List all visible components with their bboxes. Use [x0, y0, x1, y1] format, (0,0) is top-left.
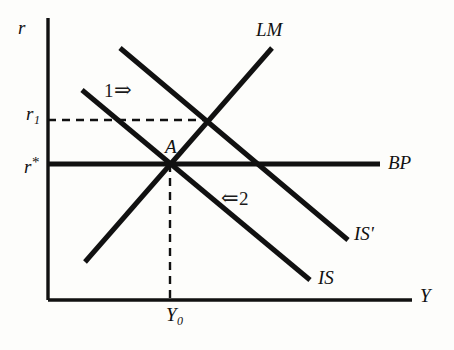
arrow-left-icon: ⇐: [220, 186, 239, 210]
curve-label-is: IS: [318, 268, 334, 287]
curve-is: [82, 90, 310, 280]
y-axis-label: r: [18, 18, 25, 37]
Y0-subscript: 0: [177, 314, 184, 328]
equilibrium-point-label-a: A: [165, 137, 177, 156]
curve-label-is-prime: IS': [354, 224, 374, 243]
Y0-tick-label: Y0: [166, 305, 183, 327]
curve-label-lm: LM: [256, 20, 282, 39]
annotation-shift-1-text: 1: [104, 80, 113, 101]
axes-group: [48, 18, 412, 300]
annotation-shift-2-text: 2: [239, 188, 248, 209]
r-star-superscript: *: [31, 154, 39, 170]
r1-subscript: 1: [33, 113, 40, 127]
x-axis-label: Y: [420, 286, 431, 305]
diagram-canvas: [0, 0, 454, 350]
curves-group: [48, 48, 380, 280]
r1-tick-label: r1: [26, 104, 40, 126]
r-star-tick-label: r*: [24, 155, 39, 176]
annotation-shift-2: ⇐2: [220, 188, 248, 209]
curve-is-prime: [120, 48, 348, 240]
curve-label-bp: BP: [388, 153, 411, 172]
Y0-base: Y: [166, 304, 177, 325]
is-lm-bp-figure: r Y r1 r* Y0 LM IS IS' BP A 1⇒ ⇐2: [0, 0, 454, 350]
arrow-right-icon: ⇒: [113, 78, 132, 102]
annotation-shift-1: 1⇒: [104, 80, 132, 101]
